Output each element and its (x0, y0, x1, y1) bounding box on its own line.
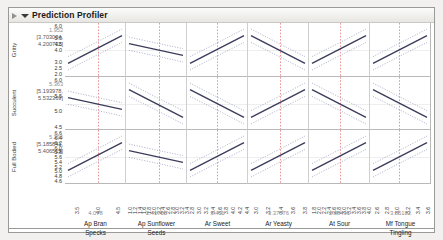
x-axis-area[interactable]: 3.54.04.54.078Ap BranSpecks1.01.21.41.61… (65, 184, 431, 240)
x-axis-ticks: 3.54.04.5 (65, 184, 126, 210)
row-name: Full Bodied (10, 130, 19, 184)
x-axis-label-line2: Specks (65, 228, 126, 237)
x-axis-ticks: 1.01.21.41.61.82.02.22.42.62.83.03.23.4 (126, 184, 187, 210)
x-current-value[interactable]: 4.078 (65, 210, 126, 216)
x-current-value[interactable]: 2.88491 (309, 210, 370, 216)
x-axis-label-line1: At Sour (309, 219, 370, 228)
bottom-divider (9, 228, 434, 229)
x-axis-label-line1: Mf Tongue (370, 219, 431, 228)
profiler-cell[interactable] (126, 130, 187, 184)
triangle-down-icon[interactable] (20, 11, 29, 20)
profiler-cell[interactable] (126, 77, 187, 131)
row-label-column: Gritty1.952[3.703034, 4.200732]6.05.04.5… (9, 23, 63, 184)
profiler-cell[interactable] (370, 130, 431, 184)
x-current-value[interactable]: 3.411 (187, 210, 248, 216)
x-axis-label-line1: Ap Bran (65, 219, 126, 228)
x-current-value[interactable]: 2.41755 (126, 210, 187, 216)
x-axis-column: 1.82.02.22.42.62.83.03.23.43.63.84.02.88… (309, 184, 370, 240)
row-name: Gritty (10, 23, 19, 77)
x-axis-label: At Sour (309, 219, 370, 228)
y-tick-label: 2.5 (55, 66, 63, 71)
profiler-cell[interactable] (248, 23, 309, 77)
x-axis-label: Ar Yeasty (248, 219, 309, 228)
profiler-cell[interactable] (65, 130, 126, 184)
x-axis-column: 1.01.21.41.61.82.02.22.42.62.83.03.23.42… (126, 184, 187, 240)
y-tick-label: 4.6 (55, 179, 63, 184)
row-name: Succulent (10, 77, 19, 131)
y-tick-label: 6.0 (55, 24, 63, 29)
profiler-cell[interactable] (65, 77, 126, 131)
x-axis-column: 3.03.23.43.63.83.37876Ar Yeasty (248, 184, 309, 240)
page-title: Prediction Profiler (32, 10, 108, 20)
x-axis-ticks: 2.83.03.23.43.63.84.04.24.4 (187, 184, 248, 210)
y-tick-label: 4.0 (55, 48, 63, 53)
profiler-cell[interactable] (65, 23, 126, 77)
profiler-body: Gritty1.952[3.703034, 4.200732]6.05.04.5… (9, 23, 434, 232)
y-tick-label: 3.0 (55, 60, 63, 65)
y-axis-ticks: 6.05.55.04.5 (49, 77, 63, 131)
x-axis-ticks: 1.82.02.22.42.62.83.03.23.43.63.84.0 (309, 184, 370, 210)
y-tick-label: 5.5 (55, 94, 63, 99)
y-tick-label: 5.0 (55, 109, 63, 114)
profiler-cell[interactable] (187, 130, 248, 184)
profiler-plot-grid[interactable] (65, 23, 431, 184)
x-axis-ticks: 2.62.83.03.23.43.6 (370, 184, 431, 210)
profiler-cell[interactable] (187, 77, 248, 131)
x-axis-label: Ar Sweet (187, 219, 248, 228)
grip-icon (12, 12, 19, 19)
prediction-profiler-window: Prediction Profiler Gritty1.952[3.703034… (0, 0, 443, 240)
profiler-cell[interactable] (370, 77, 431, 131)
x-current-value[interactable]: 3.37876 (248, 210, 309, 216)
panel-title-bar[interactable]: Prediction Profiler (9, 8, 434, 23)
x-axis-column: 3.54.04.54.078Ap BranSpecks (65, 184, 126, 240)
y-axis-ticks: 6.05.04.54.03.02.52.0 (49, 23, 63, 77)
x-axis-label-line1: Ar Sweet (187, 219, 248, 228)
profiler-cell[interactable] (309, 77, 370, 131)
profiler-cell[interactable] (126, 23, 187, 77)
profiler-cell[interactable] (248, 77, 309, 131)
x-axis-label-line2: Seeds (126, 228, 187, 237)
x-axis-ticks: 3.03.23.43.63.8 (248, 184, 309, 210)
profiler-cell[interactable] (309, 23, 370, 77)
x-axis-label-line2: Tingling (370, 228, 431, 237)
x-axis-column: 2.83.03.23.43.63.84.04.24.43.411Ar Sweet (187, 184, 248, 240)
x-axis-label-line1: Ap Sunflower (126, 219, 187, 228)
x-axis-label-line1: Ar Yeasty (248, 219, 309, 228)
y-axis-ticks: 6.66.46.26.05.85.65.45.25.04.84.6 (49, 130, 63, 184)
profiler-cell[interactable] (309, 130, 370, 184)
profiler-cell[interactable] (248, 130, 309, 184)
y-tick-label: 6.0 (55, 78, 63, 83)
x-current-value[interactable]: 3.05182 (370, 210, 431, 216)
profiler-cell[interactable] (370, 23, 431, 77)
x-axis-column: 2.62.83.03.23.43.63.05182Mf TongueTingli… (370, 184, 431, 240)
profiler-cell[interactable] (187, 23, 248, 77)
profiler-panel: Prediction Profiler Gritty1.952[3.703034… (8, 7, 435, 233)
